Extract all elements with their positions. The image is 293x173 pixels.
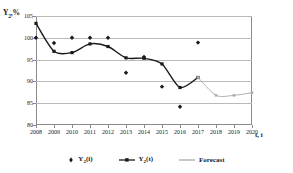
x-tick-label: 2019 (228, 129, 240, 135)
x-tick-label: 2018 (210, 129, 222, 135)
y-axis-title: Y2,% (3, 8, 20, 19)
x-tick-label: 2012 (102, 129, 114, 135)
data-point-marker (178, 104, 182, 108)
x-tick-label: 2011 (84, 129, 96, 135)
data-point-marker (106, 45, 109, 48)
y-axis-title-suffix: ,% (11, 8, 20, 17)
legend-label-suffix: (t) (146, 155, 153, 163)
y-tick-label: 100 (24, 35, 33, 41)
y-tick-label: 105 (24, 13, 33, 19)
legend-label: Forecast (199, 157, 225, 164)
legend-label-suffix: (i) (86, 155, 93, 163)
x-tick-mark (144, 125, 145, 128)
data-point-marker (124, 70, 128, 74)
x-tick-mark (234, 125, 235, 128)
x-tick-label: 2010 (66, 129, 78, 135)
x-tick-mark (126, 125, 127, 128)
x-tick-label: 2015 (156, 129, 168, 135)
data-point-marker (88, 36, 92, 40)
series-line (36, 23, 198, 87)
x-tick-mark (54, 125, 55, 128)
data-point-marker (88, 42, 91, 45)
x-tick-mark (108, 125, 109, 128)
series-line (198, 77, 252, 96)
legend-label: Y2(i) (78, 156, 92, 164)
data-point-marker (70, 51, 73, 54)
x-tick-label: 2017 (192, 129, 204, 135)
x-tick-mark (198, 125, 199, 128)
legend-swatch-line (179, 156, 195, 164)
data-point-marker (70, 36, 74, 40)
legend-label: Y2(t) (139, 156, 154, 164)
legend-item[interactable]: Y2(t) (119, 156, 154, 164)
x-tick-label: 2008 (30, 129, 42, 135)
x-tick-mark (36, 125, 37, 128)
x-tick-mark (72, 125, 73, 128)
plot-area: 10510095908580 2008200920102011201220132… (36, 16, 252, 125)
x-tick-mark (90, 125, 91, 128)
data-point-marker (52, 41, 56, 45)
data-point-marker (106, 36, 110, 40)
x-tick-label: 2009 (48, 129, 60, 135)
series-forecast (197, 76, 254, 96)
data-point-marker (197, 76, 200, 79)
series-y2-i (34, 36, 200, 109)
data-point-marker (34, 36, 38, 40)
legend-swatch-marker-only (68, 156, 74, 164)
data-point-marker (251, 91, 254, 94)
data-point-marker (142, 57, 145, 60)
data-point-marker (124, 56, 127, 59)
data-series-group (36, 16, 252, 125)
x-tick-mark (162, 125, 163, 128)
data-point-marker (178, 86, 181, 89)
y-tick-label: 80 (27, 122, 33, 128)
data-point-marker (160, 62, 163, 65)
x-tick-label: 2014 (138, 129, 150, 135)
x-tick-mark (180, 125, 181, 128)
data-point-marker (34, 22, 37, 25)
data-point-marker (160, 84, 164, 88)
x-tick-label: 2016 (174, 129, 186, 135)
data-point-marker (233, 94, 236, 97)
y-tick-label: 90 (27, 78, 33, 84)
series-y2-t (34, 22, 199, 89)
y-tick-label: 95 (27, 57, 33, 63)
x-tick-mark (252, 125, 253, 128)
x-tick-mark (216, 125, 217, 128)
legend-item[interactable]: Forecast (179, 156, 225, 164)
x-tick-label: 2013 (120, 129, 132, 135)
data-point-marker (215, 94, 218, 97)
data-point-marker (52, 50, 55, 53)
chart-container: Y2,% 10510095908580 20082009201020112012… (0, 0, 293, 173)
x-axis-title: t, i (255, 131, 263, 139)
data-point-marker (196, 40, 200, 44)
chart-legend: Y2(i)Y2(t)Forecast (0, 150, 293, 170)
y-tick-label: 85 (27, 100, 33, 106)
legend-swatch-line-marker (119, 156, 135, 164)
legend-item[interactable]: Y2(i) (68, 156, 92, 164)
